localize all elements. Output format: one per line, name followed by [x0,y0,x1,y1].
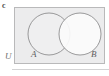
horizontal-rule [12,69,109,70]
part-label: c [2,1,6,10]
set-a-label: A [31,49,37,59]
venn-diagram-figure: c U A B [0,0,109,76]
set-b-label: B [91,49,97,59]
universal-set-label: U [5,51,12,61]
